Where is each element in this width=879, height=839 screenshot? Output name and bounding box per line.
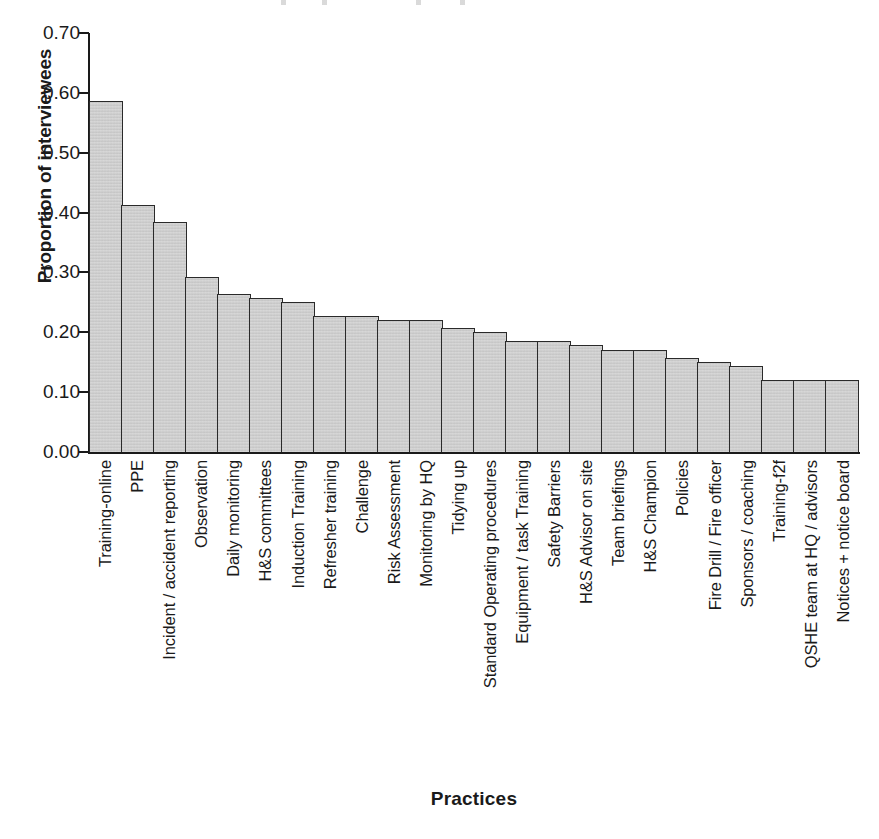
bar-chart-figure: Proportion of interviewees 0.000.100.200… <box>0 0 879 839</box>
x-axis-tick-label: Observation <box>193 460 210 548</box>
x-axis-tick-label: Safety Barriers <box>546 460 563 568</box>
bar <box>825 380 859 452</box>
plot-area <box>89 33 859 452</box>
x-axis-tick-label-cell: Fire Drill / Fire officer <box>698 456 730 766</box>
x-axis-tick-label-cell: Daily monitoring <box>217 456 249 766</box>
x-axis-tick-label-cell: Tidying up <box>442 456 474 766</box>
y-axis-tick-label: 0.40 <box>22 203 80 222</box>
y-axis-tick-mark <box>79 212 89 214</box>
x-axis-tick-label-cell: H&S committees <box>249 456 281 766</box>
scan-artifact <box>265 0 525 5</box>
x-axis-tick-label-cell: Training-f2f <box>763 456 795 766</box>
bar <box>249 298 283 452</box>
x-axis-tick-label: Risk Assessment <box>385 460 402 584</box>
x-axis-tick-label: Notices + notice board <box>835 460 852 622</box>
x-axis-line <box>88 452 860 454</box>
x-axis-tick-label-cell: Safety Barriers <box>538 456 570 766</box>
x-axis-tick-label: H&S Champion <box>642 460 659 573</box>
x-axis-tick-label: Incident / accident reporting <box>161 460 178 660</box>
x-axis-tick-label-cell: H&S Advisor on site <box>570 456 602 766</box>
x-axis-tick-label-cell: Induction Training <box>281 456 313 766</box>
x-axis-tick-label-cell: Refresher training <box>314 456 346 766</box>
x-axis-tick-label: PPE <box>129 460 146 493</box>
y-axis-tick-mark <box>79 391 89 393</box>
x-axis-tick-label: H&S Advisor on site <box>578 460 595 604</box>
bar <box>89 101 123 452</box>
bar <box>185 277 219 452</box>
x-axis-tick-label-cell: Notices + notice board <box>827 456 859 766</box>
x-axis-tick-label-cell: Standard Operating procedures <box>474 456 506 766</box>
y-axis-tick-mark <box>79 271 89 273</box>
y-axis-tick-label: 0.70 <box>22 23 80 42</box>
x-axis-tick-label: Fire Drill / Fire officer <box>706 460 723 610</box>
bar <box>441 328 475 452</box>
x-axis-tick-label-cell: Risk Assessment <box>378 456 410 766</box>
x-axis-tick-label: Tidying up <box>450 460 467 535</box>
x-axis-tick-label-cell: Incident / accident reporting <box>153 456 185 766</box>
bar-series <box>89 33 859 452</box>
bar <box>313 316 347 452</box>
x-axis-tick-label-cell: Observation <box>185 456 217 766</box>
bar <box>729 366 763 452</box>
y-axis-tick-mark <box>79 152 89 154</box>
y-axis-tick-mark <box>79 32 89 34</box>
bar <box>761 380 795 452</box>
x-axis-tick-label-cell: Policies <box>666 456 698 766</box>
x-axis-tick-label: Training-online <box>97 460 114 567</box>
bar <box>665 358 699 452</box>
x-axis-tick-label: Team briefings <box>610 460 627 566</box>
x-axis-tick-label: Induction Training <box>289 460 306 588</box>
bar <box>569 345 603 452</box>
x-axis-tick-label-cell: H&S Champion <box>634 456 666 766</box>
bar <box>633 350 667 452</box>
bar <box>217 294 251 452</box>
x-axis-tick-label-cell: Team briefings <box>602 456 634 766</box>
bar <box>409 320 443 452</box>
bar <box>473 332 507 452</box>
x-axis-tick-label: Standard Operating procedures <box>482 460 499 688</box>
bar <box>505 341 539 452</box>
y-axis-tick-label: 0.30 <box>22 262 80 281</box>
y-axis-tick-label: 0.50 <box>22 143 80 162</box>
x-axis-tick-label-cell: QSHE team at HQ / advisors <box>795 456 827 766</box>
x-axis-tick-label-cell: Sponsors / coaching <box>731 456 763 766</box>
x-axis-tick-label-cell: Equipment / task Training <box>506 456 538 766</box>
x-axis-tick-label: H&S committees <box>257 460 274 581</box>
bar <box>601 350 635 452</box>
bar <box>345 316 379 452</box>
x-axis-tick-labels: Training-onlinePPEIncident / accident re… <box>89 456 859 766</box>
bar <box>281 302 315 452</box>
bar <box>121 205 155 452</box>
bar <box>377 320 411 452</box>
y-axis-tick-label: 0.20 <box>22 322 80 341</box>
x-axis-tick-label: Monitoring by HQ <box>418 460 435 587</box>
y-axis-tick-label: 0.10 <box>22 382 80 401</box>
x-axis-title: Practices <box>89 788 859 810</box>
x-axis-tick-label: Refresher training <box>321 460 338 589</box>
y-axis-tick-label: 0.00 <box>22 442 80 461</box>
y-axis-tick-mark <box>79 451 89 453</box>
x-axis-tick-label: Sponsors / coaching <box>738 460 755 608</box>
bar <box>697 362 731 452</box>
bar <box>793 380 827 452</box>
x-axis-tick-label-cell: Challenge <box>346 456 378 766</box>
y-axis-tick-label: 0.60 <box>22 83 80 102</box>
bar <box>153 222 187 452</box>
x-axis-tick-label-cell: Training-online <box>89 456 121 766</box>
x-axis-tick-label-cell: Monitoring by HQ <box>410 456 442 766</box>
y-axis-tick-mark <box>79 92 89 94</box>
x-axis-tick-label: Equipment / task Training <box>514 460 531 644</box>
x-axis-tick-label: Policies <box>674 460 691 516</box>
x-axis-tick-label-cell: PPE <box>121 456 153 766</box>
x-axis-tick-label: Training-f2f <box>770 460 787 542</box>
x-axis-tick-label: Daily monitoring <box>225 460 242 577</box>
x-axis-tick-label: QSHE team at HQ / advisors <box>803 460 820 668</box>
x-axis-tick-label: Challenge <box>353 460 370 533</box>
y-axis-tick-mark <box>79 331 89 333</box>
y-axis-tick-labels: 0.000.100.200.300.400.500.600.70 <box>22 0 80 839</box>
bar <box>537 341 571 452</box>
